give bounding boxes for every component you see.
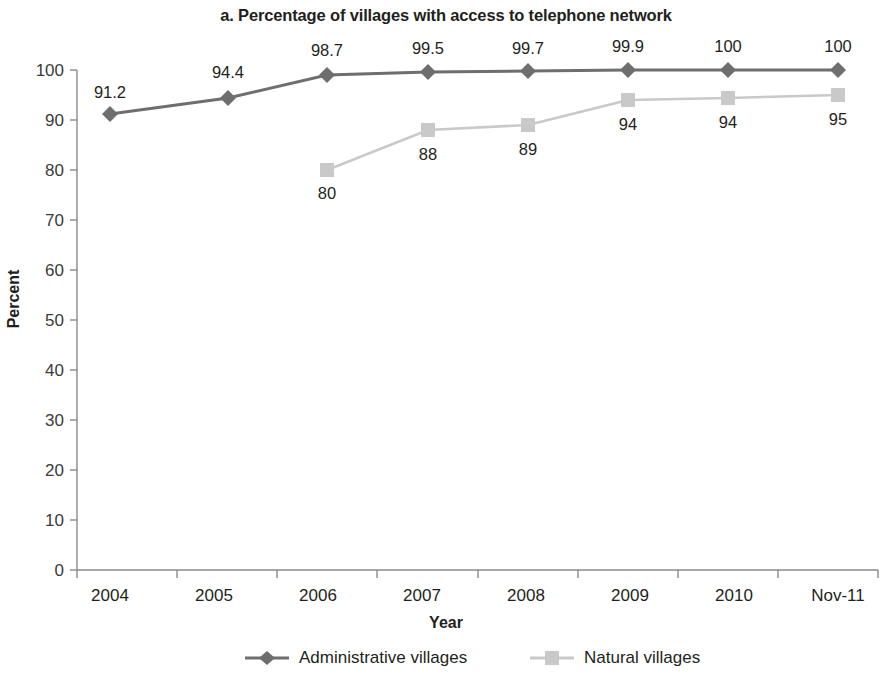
data-label-natural-nov-11: 95 — [803, 111, 873, 128]
data-label-admin-2007: 99.5 — [393, 40, 463, 57]
data-label-admin-2004: 91.2 — [75, 84, 145, 101]
data-label-admin-nov-11: 100 — [803, 38, 873, 55]
square-marker-icon — [528, 649, 576, 667]
data-point-marker — [420, 64, 436, 80]
data-point-marker — [421, 123, 435, 137]
data-point-marker — [720, 62, 736, 78]
data-point-marker — [220, 90, 236, 106]
chart-figure: a. Percentage of villages with access to… — [0, 0, 892, 680]
data-point-marker — [620, 62, 636, 78]
data-point-marker — [721, 91, 735, 105]
data-label-natural-2010: 94 — [693, 114, 763, 131]
data-label-natural-2009: 94 — [593, 116, 663, 133]
x-axis — [77, 570, 878, 578]
legend-item-administrative-villages[interactable]: Administrative villages — [243, 648, 467, 668]
legend-label-natural-villages: Natural villages — [584, 648, 700, 668]
data-point-marker — [621, 93, 635, 107]
y-axis — [70, 70, 77, 570]
data-point-marker — [830, 62, 846, 78]
diamond-marker-icon — [243, 649, 291, 667]
data-label-admin-2008: 99.7 — [493, 40, 563, 57]
chart-legend: Administrative villages Natural villages — [0, 648, 892, 678]
data-label-admin-2006: 98.7 — [292, 42, 362, 59]
data-label-admin-2009: 99.9 — [593, 38, 663, 55]
series-natural-villages — [320, 88, 845, 177]
data-point-marker — [520, 63, 536, 79]
data-label-admin-2005: 94.4 — [193, 64, 263, 81]
data-label-natural-2008: 89 — [493, 141, 563, 158]
plot-area — [0, 0, 892, 680]
data-label-natural-2007: 88 — [393, 146, 463, 163]
data-point-marker — [102, 106, 118, 122]
data-point-marker — [521, 118, 535, 132]
data-point-marker — [320, 163, 334, 177]
data-point-marker — [831, 88, 845, 102]
legend-label-administrative-villages: Administrative villages — [299, 648, 467, 668]
data-point-marker — [319, 67, 335, 83]
legend-item-natural-villages[interactable]: Natural villages — [528, 648, 700, 668]
data-label-admin-2010: 100 — [693, 38, 763, 55]
data-label-natural-2006: 80 — [292, 185, 362, 202]
